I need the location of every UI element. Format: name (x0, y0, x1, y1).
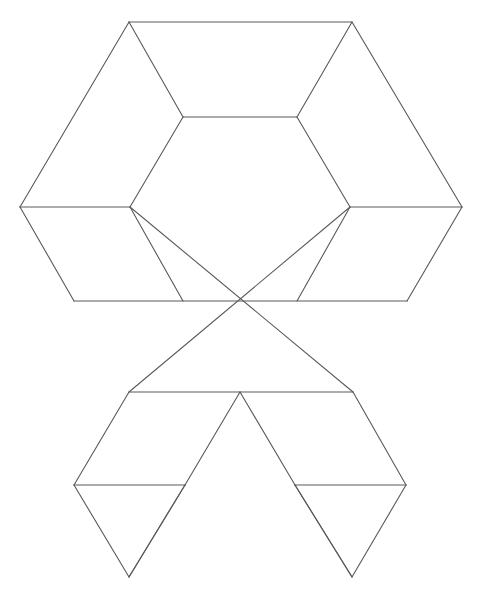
net-edge-spoke-top-left (129, 22, 183, 117)
net-edge-cross-left-down (130, 207, 353, 392)
net-edge-outer-hex-upper-right (352, 22, 462, 207)
net-edge-bottom-right-descender (240, 392, 295, 485)
net-edge-inner-hex-lower-left (130, 207, 183, 301)
net-edge-bottom-right-tri-right (352, 485, 406, 577)
net-edge-bottom-right-descender-outer (295, 485, 352, 577)
net-edge-lower-right-leg (353, 392, 406, 485)
edge-layer (20, 22, 462, 577)
net-edge-bottom-left-descender (185, 392, 240, 485)
net-edge-outer-hex-lower-right (407, 207, 462, 301)
net-edge-inner-hex-upper-right (297, 117, 350, 207)
net-edge-spoke-top-right (297, 22, 352, 117)
net-edge-cross-right-down (129, 207, 350, 392)
net-edge-outer-hex-upper-left (20, 22, 129, 207)
net-edge-inner-hex-lower-right (297, 207, 350, 301)
net-edge-lower-left-leg (74, 392, 129, 485)
net-edge-inner-hex-upper-left (130, 117, 183, 207)
net-edge-bottom-left-tri-left (74, 485, 129, 577)
figure-canvas (0, 0, 477, 593)
net-edge-bottom-left-descender-outer (129, 485, 185, 577)
net-edge-outer-hex-lower-left (20, 207, 74, 301)
hexagonal-net-diagram (0, 0, 477, 593)
